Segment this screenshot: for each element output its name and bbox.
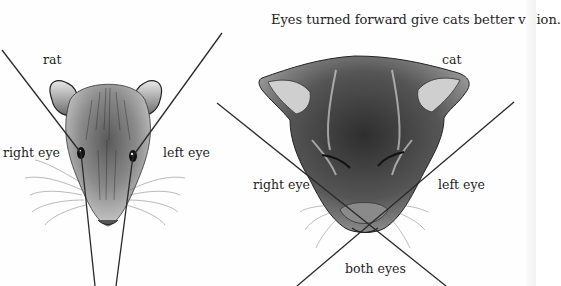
cat-left-eye-label: left eye — [438, 179, 485, 192]
rat-label: rat — [43, 54, 61, 67]
cat-right-eye-label: right eye — [253, 179, 310, 192]
rat-left-eye-label: left eye — [163, 147, 210, 160]
cat-both-eyes-label: both eyes — [345, 263, 406, 276]
caption-title: Eyes turned forward give cats better vis… — [271, 13, 561, 26]
cat-head — [259, 56, 469, 248]
page-edge — [526, 0, 536, 286]
rat-right-eye-label: right eye — [3, 147, 60, 160]
cat-label: cat — [442, 54, 461, 67]
